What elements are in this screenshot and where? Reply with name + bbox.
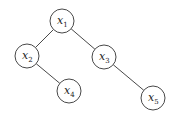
node-x2: x2 bbox=[15, 44, 39, 68]
edge-x1-x2 bbox=[35, 29, 53, 47]
edge-x3-x5 bbox=[113, 65, 144, 91]
node-x3: x3 bbox=[92, 45, 116, 69]
binary-tree-diagram: x1x2x3x4x5 bbox=[0, 0, 171, 117]
edge-x2-x4 bbox=[36, 64, 60, 84]
edge-x1-x3 bbox=[71, 29, 95, 49]
node-x5: x5 bbox=[141, 86, 165, 110]
node-x1: x1 bbox=[50, 9, 74, 33]
nodes: x1x2x3x4x5 bbox=[15, 9, 165, 110]
node-x4: x4 bbox=[57, 79, 81, 103]
edges bbox=[35, 29, 143, 90]
